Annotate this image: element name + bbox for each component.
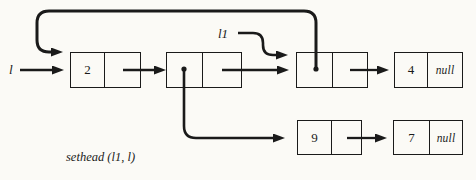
label-l1: l1 <box>218 27 228 40</box>
list-node-7: 7 null <box>393 120 463 155</box>
next-cell <box>332 121 361 154</box>
value-cell: 2 <box>71 53 105 87</box>
value-cell: 9 <box>298 121 332 154</box>
linked-list-diagram: l l1 2 4 null 9 <box>0 0 476 180</box>
list-node-9: 9 <box>297 120 362 155</box>
node-value: 9 <box>311 130 318 146</box>
null-pointer-text: null <box>436 64 455 76</box>
list-node-4: 4 null <box>394 52 463 88</box>
next-cell <box>333 53 367 87</box>
value-cell <box>167 53 203 87</box>
figure-caption: sethead (l1, l) <box>66 151 135 164</box>
node-value: 4 <box>408 62 415 78</box>
list-node-l1-target <box>296 52 368 88</box>
l1-pointer-curve <box>238 33 278 55</box>
node-value: 2 <box>84 62 91 78</box>
next-cell: null <box>430 121 462 154</box>
next-cell <box>203 53 241 87</box>
next-cell <box>105 53 140 87</box>
value-cell <box>297 53 333 87</box>
null-pointer-text: null <box>437 132 456 144</box>
next-cell: null <box>428 53 462 87</box>
list-node-2: 2 <box>70 52 141 88</box>
label-l: l <box>9 63 13 77</box>
list-node-empty-mid <box>166 52 242 88</box>
node-value: 7 <box>408 130 415 146</box>
value-cell: 7 <box>394 121 430 154</box>
value-cell: 4 <box>395 53 428 87</box>
